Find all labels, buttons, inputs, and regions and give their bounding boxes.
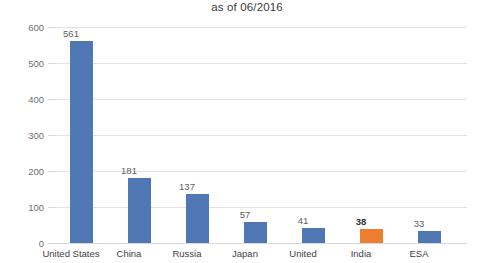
value-label-united: 41 [273,216,333,226]
bar-chart: as of 06/2016 600 500 400 300 200 100 0 [0,0,494,263]
bar-japan[interactable] [244,222,267,243]
y-tick-mark [48,171,56,172]
y-tick-mark [48,243,56,244]
bar-china[interactable] [128,178,151,243]
gridline [56,207,467,208]
y-tick-mark [48,63,56,64]
value-label-russia: 137 [157,182,217,192]
value-label-united-states: 561 [41,29,101,39]
category-label-esa: ESA [374,249,464,259]
y-tick-mark [48,99,56,100]
y-tick-mark [48,207,56,208]
axis-baseline [56,243,467,244]
gridline [56,63,467,64]
bar-united[interactable] [302,228,325,243]
y-tick-mark [48,27,56,28]
bar-india[interactable] [360,229,383,243]
bar-russia[interactable] [186,194,209,243]
value-label-india: 38 [331,217,391,227]
value-label-japan: 57 [215,210,275,220]
value-label-china: 181 [99,166,159,176]
bar-united-states[interactable] [70,41,93,243]
gridline [56,27,467,28]
y-tick-mark [48,135,56,136]
gridline [56,99,467,100]
bar-esa[interactable] [418,231,441,243]
value-label-esa: 33 [389,219,449,229]
gridline [56,135,467,136]
